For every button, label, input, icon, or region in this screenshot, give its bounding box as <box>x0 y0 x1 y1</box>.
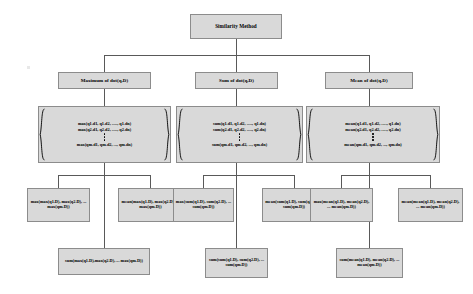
node-sum-of-dot[interactable]: Sum of dot(q,D) <box>195 72 278 89</box>
connector-max-matrix-left-drop <box>58 175 59 188</box>
matrix-row: sum(qm.d1, qm.d2, ..., qm.dn) <box>212 142 267 147</box>
matrix-rows: sum(q1.d1, q1.d2, ....., q1.dn) sum(q2.d… <box>183 121 296 148</box>
node-sum-of-mean[interactable]: sum(mean(q1.D), mean(q2.D), ... mean(qm.… <box>336 248 403 278</box>
connector-sum-matrix-bus <box>203 175 295 176</box>
node-similarity-method[interactable]: Similarity Method <box>190 14 282 39</box>
matrix-rows: mean(q1.d1, q1.d2, ....., q1.dn) mean(q2… <box>313 121 433 148</box>
node-sum-of-max[interactable]: sum(max(q1.D),max(q2.D), ... max(qm.D)) <box>58 248 150 275</box>
node-max-of-mean[interactable]: max(mean(q1.D), mean(q2.D), ... mean(qm.… <box>310 188 373 222</box>
node-max-matrix[interactable]: max(q1.d1, q1.d2, ....., q1.dn) max(q2.d… <box>38 106 171 163</box>
connector-sum-matrix-right-drop <box>294 175 295 188</box>
connector-max-dot-to-matrix <box>104 89 105 106</box>
connector-mean-matrix-bus <box>341 175 431 176</box>
right-brace-icon <box>433 108 439 161</box>
node-label: Similarity Method <box>215 24 257 30</box>
node-label: max(max(q1.D), max(q2.D), ... max(qm.D)) <box>29 200 88 210</box>
connector-to-mean-dot <box>369 55 370 72</box>
connector-max-matrix-right-drop <box>150 175 151 188</box>
node-sum-matrix[interactable]: sum(q1.d1, q1.d2, ....., q1.dn) sum(q2.d… <box>176 106 303 163</box>
diagram-canvas: Similarity Method Maximum of dot(q,D) Su… <box>0 0 473 294</box>
connector-sum-dot-to-matrix <box>236 89 237 106</box>
node-label: sum(max(q1.D),max(q2.D), ... max(qm.D)) <box>65 259 143 264</box>
matrix-inner: mean(q1.d1, q1.d2, ....., q1.dn) mean(q2… <box>307 107 439 162</box>
node-label: max(sum(q1.D), sum(q2.D), ... sum(qm.D)) <box>175 200 232 210</box>
node-label: Mean of dot(q,D) <box>350 78 387 84</box>
connector-max-matrix-center-drop <box>104 163 105 248</box>
node-sum-of-sum[interactable]: sum(sum(q1.D), sum(q2.D), ... sum(qm.D)) <box>205 248 268 278</box>
matrix-row: mean(q2.d1, q2.d2, ....., q2.dn) <box>345 127 400 132</box>
connector-to-sum-dot <box>236 55 237 72</box>
connector-mean-dot-to-matrix <box>369 89 370 106</box>
node-mean-of-mean[interactable]: mean(mean(q1.D), mean(q2.D), ... mean(qm… <box>398 188 463 222</box>
matrix-row: max(q2.d1, q2.d2, ....., q2.dn) <box>78 127 131 132</box>
node-maximum-of-dot[interactable]: Maximum of dot(q,D) <box>58 72 151 89</box>
node-mean-matrix[interactable]: mean(q1.d1, q1.d2, ....., q1.dn) mean(q2… <box>306 106 440 163</box>
connector-to-max-dot <box>104 55 105 72</box>
node-label: mean(mean(q1.D), mean(q2.D), ... mean(qm… <box>400 200 461 210</box>
vertical-dots-icon <box>372 133 374 140</box>
node-label: Sum of dot(q,D) <box>219 78 254 84</box>
matrix-row: mean(qm.d1, qm.d2, ..., qm.dn) <box>344 142 402 147</box>
node-label: sum(mean(q1.D), mean(q2.D), ... mean(qm.… <box>338 258 401 268</box>
matrix-row: max(qm.d1, qm.d2, ..., qm.dn) <box>77 142 132 147</box>
node-label: mean(max(q1.D), max(q2.D), ... max(qm.D)… <box>120 200 181 210</box>
matrix-inner: sum(q1.d1, q1.d2, ....., q1.dn) sum(q2.d… <box>177 107 302 162</box>
right-brace-icon <box>296 108 302 161</box>
right-brace-icon <box>164 108 170 161</box>
matrix-row: sum(q2.d1, q2.d2, ....., q2.dn) <box>213 127 266 132</box>
vertical-dots-icon <box>104 133 106 140</box>
node-label: max(mean(q1.D), mean(q2.D), ... mean(qm.… <box>312 200 371 210</box>
node-label: sum(sum(q1.D), sum(q2.D), ... sum(qm.D)) <box>207 258 266 268</box>
node-max-of-sum[interactable]: max(sum(q1.D), sum(q2.D), ... sum(qm.D)) <box>173 188 234 222</box>
background-speck <box>27 66 30 69</box>
connector-mean-matrix-right-drop <box>430 175 431 188</box>
node-mean-of-dot[interactable]: Mean of dot(q,D) <box>325 72 413 89</box>
connector-sum-matrix-left-drop <box>203 175 204 188</box>
matrix-rows: max(q1.d1, q1.d2, ....., q1.dn) max(q2.d… <box>45 121 164 148</box>
matrix-inner: max(q1.d1, q1.d2, ....., q1.dn) max(q2.d… <box>39 107 170 162</box>
vertical-dots-icon <box>239 133 241 140</box>
node-max-of-max[interactable]: max(max(q1.D), max(q2.D), ... max(qm.D)) <box>27 188 90 222</box>
connector-sum-matrix-center-drop <box>236 163 237 248</box>
connector-root-stem <box>236 39 237 55</box>
connector-mean-matrix-left-drop <box>341 175 342 188</box>
node-label: Maximum of dot(q,D) <box>81 78 128 84</box>
